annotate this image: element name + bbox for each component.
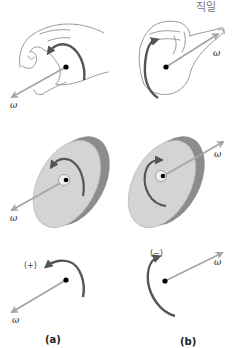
omega-label-abstract-a: ω xyxy=(12,316,19,325)
disc-b-icon xyxy=(114,125,223,240)
omega-label-disc-a: ω xyxy=(10,214,17,223)
right-hand-rule-diagram xyxy=(0,0,232,348)
right-hand-a-icon xyxy=(12,24,108,97)
sign-plus-a: (+) xyxy=(24,262,37,270)
right-hand-b-icon xyxy=(139,21,224,98)
omega-label-hand-a: ω xyxy=(10,101,17,110)
omega-label-hand-b: ω xyxy=(213,49,220,58)
korean-text: 직일 xyxy=(196,2,216,13)
omega-label-abstract-b: ω xyxy=(214,258,221,267)
caption-a: (a) xyxy=(45,335,61,345)
disc-a-icon xyxy=(12,125,124,240)
sign-minus-b: (−) xyxy=(150,250,163,258)
omega-label-disc-b: ω xyxy=(214,150,221,159)
caption-b: (b) xyxy=(180,337,196,347)
abstract-a-icon xyxy=(12,261,84,312)
abstract-b-icon xyxy=(148,253,222,316)
